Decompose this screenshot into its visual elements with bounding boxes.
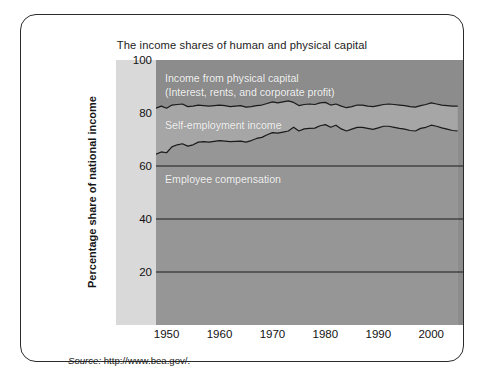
y-tick-label: 40: [139, 213, 152, 225]
x-axis-tick-strip: 195019601970198019902000: [156, 328, 463, 348]
x-tick-label: 1950: [154, 328, 180, 340]
source-note: Source: http://www.bea.gov/.: [68, 355, 190, 366]
figure-frame: The income shares of human and physical …: [20, 14, 464, 362]
source-prefix: Source:: [68, 355, 101, 366]
annotation-physical-capital-line2: (Interest, rents, and corporate profit): [165, 86, 335, 98]
y-axis-label-container: Percentage share of national income: [83, 59, 101, 325]
x-tick-label: 1990: [366, 328, 392, 340]
stacked-area-chart: [156, 60, 463, 325]
source-url: http://www.bea.gov/.: [104, 355, 190, 366]
y-tick-label: 100: [133, 54, 152, 66]
band-employee-compensation: [156, 125, 458, 325]
y-axis-label: Percentage share of national income: [86, 96, 98, 288]
annotation-employee-compensation: Employee compensation: [165, 173, 281, 185]
y-tick-label: 20: [139, 266, 152, 278]
y-tick-label: 60: [139, 160, 152, 172]
x-tick-label: 1970: [260, 328, 286, 340]
y-tick-label: 80: [139, 107, 152, 119]
annotation-physical-capital-line1: Income from physical capital: [165, 72, 299, 84]
plot-area: Income from physical capital (Interest, …: [156, 60, 463, 325]
y-axis-tick-strip: 10080604020: [116, 60, 156, 325]
x-tick-label: 1980: [313, 328, 339, 340]
annotation-self-employment: Self-employment income: [165, 119, 282, 131]
chart-title: The income shares of human and physical …: [21, 39, 463, 51]
x-tick-label: 1960: [207, 328, 233, 340]
x-tick-label: 2000: [418, 328, 444, 340]
